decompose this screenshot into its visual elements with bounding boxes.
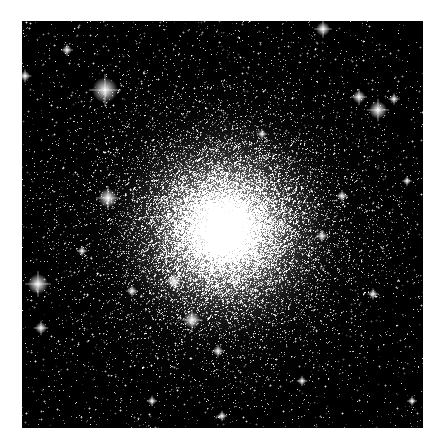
star-field bbox=[22, 21, 423, 428]
cluster-image bbox=[22, 21, 423, 428]
